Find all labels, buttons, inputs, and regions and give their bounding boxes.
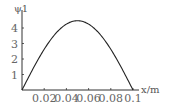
x-tick-label: 0.08 bbox=[99, 92, 124, 105]
x-tick-label: 0.06 bbox=[76, 92, 101, 105]
axes bbox=[22, 10, 139, 90]
y-tick-label: 4 bbox=[11, 22, 18, 35]
x-tick-label: 0.04 bbox=[54, 92, 79, 105]
y-tick-label: 1 bbox=[11, 69, 18, 82]
y-axis-label: ψ1 bbox=[14, 3, 28, 14]
psi1-curve bbox=[22, 21, 133, 90]
x-tick-label: 0.1 bbox=[124, 92, 142, 105]
data-series bbox=[22, 21, 133, 90]
x-tick-label: 0.02 bbox=[32, 92, 57, 105]
x-axis-label: x/m bbox=[141, 84, 160, 95]
y-tick-label: 3 bbox=[11, 38, 18, 51]
wavefunction-chart: 12340.020.040.060.080.1ψ1x/m bbox=[0, 0, 177, 112]
y-tick-label: 2 bbox=[11, 53, 18, 66]
